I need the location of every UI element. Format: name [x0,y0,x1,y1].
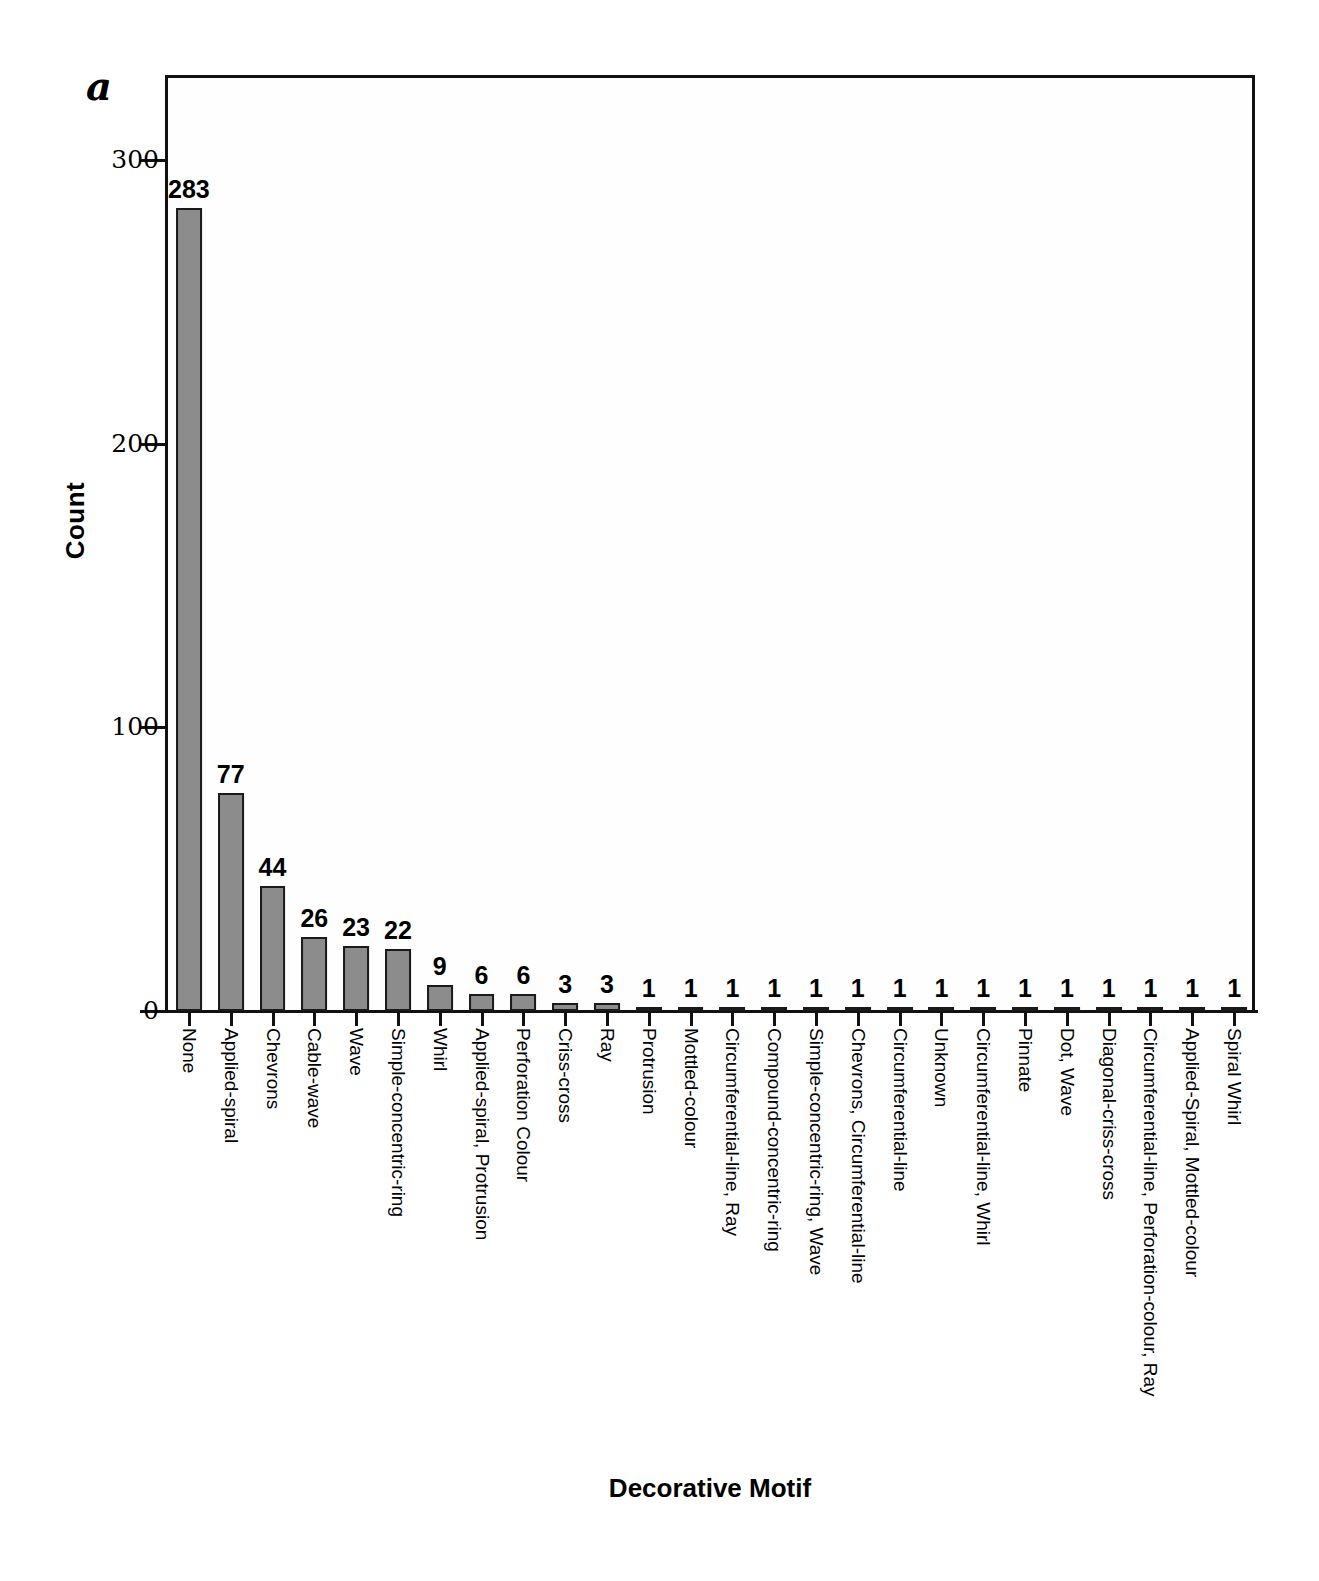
x-axis-tick-label: Dot, Wave [1057,1028,1076,1116]
bar[interactable] [803,1007,829,1011]
bar[interactable] [1179,1007,1205,1011]
bar[interactable] [1054,1007,1080,1011]
x-axis-tick-mark [857,1013,860,1026]
bar[interactable] [594,1003,620,1012]
bar-slot: 1 [1088,75,1130,1011]
bar-value-label: 26 [300,906,328,931]
x-axis-tick-slot: Mottled-colour [670,1013,712,1433]
x-axis-tick-mark [439,1013,442,1026]
bar-value-label: 77 [217,762,245,787]
bar-value-label: 1 [725,976,739,1001]
bar-slot: 1 [879,75,921,1011]
x-axis-tick-label: None [179,1028,198,1073]
bar-slot: 1 [712,75,754,1011]
x-axis-tick-label: Cable-wave [305,1028,324,1128]
bar[interactable] [1096,1007,1122,1011]
bar[interactable] [385,949,411,1011]
x-axis-tick-slot: Simple-concentric-ring, Wave [795,1013,837,1433]
x-axis-tick-slot: None [168,1013,210,1433]
bar[interactable] [761,1007,787,1011]
x-axis-tick-mark [690,1013,693,1026]
bar[interactable] [510,994,536,1011]
x-axis-tick-mark [1233,1013,1236,1026]
bar-value-label: 1 [1060,976,1074,1001]
bar-value-label: 1 [684,976,698,1001]
bar[interactable] [427,985,453,1011]
bar-value-label: 1 [893,976,907,1001]
bar-value-label: 1 [976,976,990,1001]
x-axis-tick-mark [272,1013,275,1026]
figure-panel-a: a Count 0100200300 283774426232296633111… [0,0,1319,1581]
bar-value-label: 1 [1018,976,1032,1001]
bar-value-label: 23 [342,915,370,940]
bar-value-label: 1 [767,976,781,1001]
bar[interactable] [719,1007,745,1011]
x-axis-tick-slot: Criss-cross [544,1013,586,1433]
bar[interactable] [343,946,369,1011]
bar[interactable] [928,1007,954,1011]
bar-slot: 1 [837,75,879,1011]
x-axis-tick-label: Simple-concentric-ring, Wave [807,1028,826,1275]
x-axis-tick-mark [481,1013,484,1026]
x-axis-tick-mark [564,1013,567,1026]
x-axis-tick-slot: Perforation Colour [502,1013,544,1433]
x-axis-tick-mark [397,1013,400,1026]
y-axis-tick-label: 100 [69,712,159,741]
bar[interactable] [260,886,286,1011]
x-axis-tick-label: Pinnate [1016,1028,1035,1092]
y-axis-tick-label: 200 [69,429,159,458]
bar[interactable] [678,1007,704,1011]
bar[interactable] [469,994,495,1011]
bar-slot: 77 [210,75,252,1011]
bar-value-label: 22 [384,918,412,943]
bar-value-label: 1 [934,976,948,1001]
bar-slot: 1 [795,75,837,1011]
bar-value-label: 283 [168,177,210,202]
x-axis-tick-slot: Circumferential-line, Perforation-colour… [1130,1013,1172,1433]
bar-value-label: 3 [600,972,614,997]
bar-slot: 6 [502,75,544,1011]
bar-slot: 6 [461,75,503,1011]
bar-slot: 1 [1213,75,1255,1011]
bar-value-label: 1 [809,976,823,1001]
bar-value-label: 1 [1227,976,1241,1001]
bar[interactable] [970,1007,996,1011]
bar-slot: 1 [753,75,795,1011]
bar-value-label: 6 [516,963,530,988]
bar-value-label: 9 [433,954,447,979]
bar[interactable] [1221,1007,1247,1011]
bar[interactable] [1138,1007,1164,1011]
x-axis-tick-slot: Ray [586,1013,628,1433]
bar-slot: 1 [1130,75,1172,1011]
x-axis-tick-slot: Dot, Wave [1046,1013,1088,1433]
x-axis-tick-slot: Applied-Spiral, Mottled-colour [1171,1013,1213,1433]
bar-value-label: 1 [1102,976,1116,1001]
x-axis-tick-slot: Circumferential-line, Ray [712,1013,754,1433]
x-axis-tick-label: Applied-Spiral, Mottled-colour [1183,1028,1202,1277]
x-axis-tick-slot: Applied-spiral, Protrusion [461,1013,503,1433]
x-axis-tick-slot: Circumferential-line, Whirl [962,1013,1004,1433]
x-axis-tick-mark [1191,1013,1194,1026]
bar[interactable] [218,793,244,1011]
bar[interactable] [887,1007,913,1011]
bar[interactable] [552,1003,578,1012]
bar-slot: 283 [168,75,210,1011]
bar-slot: 1 [921,75,963,1011]
bar[interactable] [1012,1007,1038,1011]
bar-value-label: 1 [642,976,656,1001]
bar-slot: 23 [335,75,377,1011]
x-axis-tick-slot: Protrusion [628,1013,670,1433]
x-axis-tick-label: Compound-concentric-ring [765,1028,784,1252]
bar[interactable] [636,1007,662,1011]
x-axis-title: Decorative Motif [165,1473,1255,1504]
x-axis-tick-mark [1066,1013,1069,1026]
x-axis-tick-mark [982,1013,985,1026]
x-axis-tick-slot: Whirl [419,1013,461,1433]
bar[interactable] [301,937,327,1011]
x-axis-tick-mark [731,1013,734,1026]
bar[interactable] [176,208,202,1011]
bar[interactable] [845,1007,871,1011]
bar-slot: 26 [293,75,335,1011]
bar-slot: 1 [962,75,1004,1011]
bar-slot: 1 [1004,75,1046,1011]
